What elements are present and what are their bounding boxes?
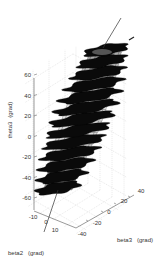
y-axis-label: beta3(grad) <box>117 237 153 243</box>
y-tick-mark <box>101 211 103 212</box>
z-tick-label: -20 <box>22 154 31 160</box>
z-tick-mark <box>34 197 37 198</box>
x-tick-label: 10 <box>52 227 59 233</box>
y-tick-mark <box>128 196 130 197</box>
y-tick-label: 40 <box>138 188 145 194</box>
y-tick-mark <box>114 203 116 204</box>
y-tick-label: 20 <box>121 198 128 204</box>
z-tick-mark <box>34 136 37 137</box>
surface-mesh <box>34 43 128 195</box>
spine-line-bottom <box>44 190 58 232</box>
z-tick-mark <box>34 156 37 157</box>
y-tick-label: 0 <box>107 209 111 215</box>
surface-top-cap <box>92 49 112 55</box>
z-axis-label: theta3(grad) <box>7 102 13 139</box>
z-tick-label: 0 <box>28 134 32 140</box>
z-tick-mark <box>34 177 37 178</box>
grid-line <box>33 200 87 231</box>
spine-marker <box>129 37 134 40</box>
z-tick-label: -40 <box>22 175 31 181</box>
x-axis-line <box>34 211 76 228</box>
z-tick-mark <box>34 115 37 116</box>
y-tick-mark <box>86 220 88 221</box>
grid-line <box>52 190 100 220</box>
surface-plot: -60-40-200204060-10010-40-2002040 theta3… <box>0 0 164 269</box>
z-tick-mark <box>34 95 37 96</box>
z-tick-label: 40 <box>24 93 31 99</box>
x-tick-label: -10 <box>29 214 38 220</box>
z-tick-label: 20 <box>24 113 31 119</box>
z-tick-mark <box>34 74 37 75</box>
surface-disc <box>34 181 82 195</box>
y-tick-label: -20 <box>93 220 102 226</box>
y-tick-label: -40 <box>78 231 87 237</box>
z-tick-label: -60 <box>22 195 31 201</box>
x-axis-label: beta2(grad) <box>8 250 44 256</box>
z-tick-label: 60 <box>24 72 31 78</box>
